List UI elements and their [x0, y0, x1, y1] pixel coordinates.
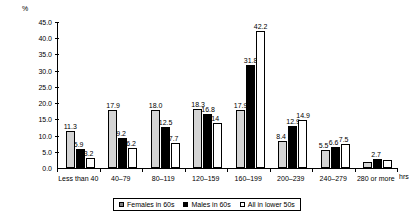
y-axis-unit-label: %	[22, 5, 28, 12]
bar	[203, 114, 212, 169]
y-tick-label: 5.0	[26, 148, 52, 155]
bar	[298, 120, 307, 168]
x-tick-mark	[312, 168, 313, 172]
bar-group-bars	[108, 22, 137, 168]
bar	[86, 158, 95, 168]
bar-group-bars	[363, 22, 392, 168]
bar	[341, 144, 350, 168]
bar	[108, 110, 117, 168]
bar-group: 17.931.842.2	[236, 22, 265, 168]
bar	[118, 138, 127, 168]
x-tick-mark	[100, 168, 101, 172]
x-tick-label: Less than 40	[58, 175, 98, 182]
y-tick-label: 45.0	[26, 19, 52, 26]
bar-group: 18.012.57.7	[151, 22, 180, 168]
legend-label: Males in 60s	[191, 201, 230, 208]
legend-swatch-icon	[240, 202, 245, 207]
x-tick-label: 240–279	[320, 175, 347, 182]
bar	[66, 131, 75, 168]
bar	[288, 126, 297, 168]
y-tick-label: 15.0	[26, 116, 52, 123]
bar	[213, 123, 222, 168]
bar	[161, 127, 170, 168]
x-tick-mark	[397, 168, 398, 172]
bar-group: 18.316.814	[193, 22, 222, 168]
bar-group: 11.35.93.2	[66, 22, 95, 168]
legend-item[interactable]: Females in 60s	[119, 201, 174, 208]
y-tick-label: 10.0	[26, 132, 52, 139]
y-tick-label: 20.0	[26, 100, 52, 107]
y-tick-label: 25.0	[26, 83, 52, 90]
x-tick-label: 200–239	[277, 175, 304, 182]
bar	[171, 143, 180, 168]
bar-group-bars	[66, 22, 95, 168]
bar	[373, 159, 382, 168]
bar-group-bars	[151, 22, 180, 168]
bar	[278, 141, 287, 168]
x-tick-mark	[142, 168, 143, 172]
legend-swatch-icon	[183, 202, 188, 207]
x-tick-mark	[185, 168, 186, 172]
bar	[128, 148, 137, 168]
y-tick-label: 0.0	[26, 165, 52, 172]
x-tick-label: 120–159	[192, 175, 219, 182]
legend-label: Females in 60s	[127, 201, 174, 208]
bar-group-bars	[193, 22, 222, 168]
bar	[256, 31, 265, 168]
x-tick-mark	[270, 168, 271, 172]
x-tick-mark	[355, 168, 356, 172]
x-tick-label: 80–119	[152, 175, 175, 182]
bar-group: 8.412.914.9	[278, 22, 307, 168]
x-tick-label: 280 or more	[357, 175, 395, 182]
bar	[236, 110, 245, 168]
bar	[331, 147, 340, 168]
bar	[321, 150, 330, 168]
x-tick-label: 160–199	[235, 175, 262, 182]
legend-label: All in lower 50s	[248, 201, 295, 208]
x-tick-label: 40–79	[111, 175, 130, 182]
bar-group: 17.99.26.2	[108, 22, 137, 168]
y-tick-label: 40.0	[26, 35, 52, 42]
x-tick-mark	[227, 168, 228, 172]
y-tick-label: 30.0	[26, 67, 52, 74]
legend-item[interactable]: All in lower 50s	[240, 201, 295, 208]
plot-area: 11.35.93.217.99.26.218.012.57.718.316.81…	[57, 22, 397, 168]
y-tick-label: 35.0	[26, 51, 52, 58]
bar	[383, 160, 392, 168]
bar	[76, 149, 85, 168]
bar-group-bars	[236, 22, 265, 168]
bar-group: 5.56.67.5	[321, 22, 350, 168]
bar	[246, 65, 255, 168]
bar-chart: % 0.05.010.015.020.025.030.035.040.045.0…	[0, 0, 410, 224]
chart-legend: Females in 60sMales in 60sAll in lower 5…	[113, 198, 301, 211]
bar-group-bars	[278, 22, 307, 168]
legend-swatch-icon	[119, 202, 124, 207]
x-axis-unit-label: hrs	[399, 173, 409, 180]
bar	[193, 109, 202, 168]
bar-group: 2.7	[363, 22, 392, 168]
bar-group-bars	[321, 22, 350, 168]
legend-item[interactable]: Males in 60s	[183, 201, 230, 208]
bar	[151, 110, 160, 168]
x-tick-mark	[57, 168, 58, 172]
